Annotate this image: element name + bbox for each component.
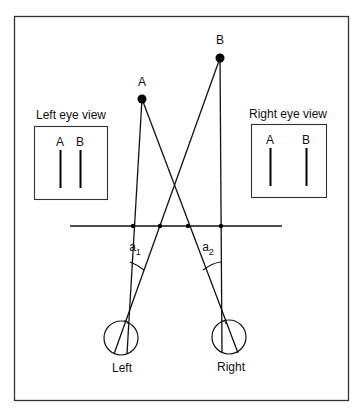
point-b-dot: [216, 54, 225, 63]
left-eye-view-box: [35, 127, 108, 200]
sight-lines: [114, 58, 238, 354]
left-view-a-label: A: [56, 135, 64, 149]
right-eye-label: Right: [217, 360, 246, 374]
angle-a2-label: a2: [202, 240, 214, 257]
outer-frame: [15, 17, 349, 401]
intersection-dot: [131, 224, 135, 228]
left-eye-label: Left: [112, 361, 133, 375]
point-b-label: B: [216, 33, 224, 47]
right-eye-view-panel: Right eye view A B: [249, 107, 327, 198]
right-eye-view-title: Right eye view: [249, 107, 327, 121]
right-view-b-label: B: [302, 133, 310, 147]
point-a-dot: [138, 95, 147, 104]
left-eye-view-title: Left eye view: [36, 108, 106, 122]
intersection-dot: [186, 224, 190, 228]
intersection-dot: [158, 224, 162, 228]
left-eye: [104, 321, 138, 355]
right-eye-view-box: [252, 125, 327, 198]
stereo-disparity-diagram: B A a1 a2 Left Right Left eye view A B: [0, 0, 362, 413]
right-eye: [212, 320, 246, 354]
left-view-b-label: B: [76, 135, 84, 149]
left-eye-view-panel: Left eye view A B: [35, 108, 108, 200]
sight-line-b-left: [114, 58, 220, 354]
right-view-a-label: A: [266, 133, 274, 147]
angle-a1-label: a1: [129, 240, 141, 257]
intersection-dot: [219, 224, 223, 228]
point-a-label: A: [138, 75, 146, 89]
